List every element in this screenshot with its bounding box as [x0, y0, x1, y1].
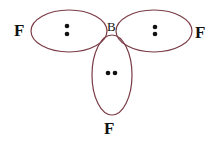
left-fluorine-label: F — [14, 21, 24, 40]
bottom-orbital — [92, 35, 132, 115]
bottom-electron-1 — [106, 71, 111, 76]
right-electron-1 — [153, 25, 158, 30]
left-electron-1 — [65, 24, 70, 29]
right-orbital — [116, 10, 192, 52]
bottom-electron-2 — [113, 71, 118, 76]
right-electron-2 — [153, 32, 158, 37]
bf3-orbital-diagram: F F F B — [0, 0, 213, 141]
right-fluorine-label: F — [195, 23, 205, 42]
bottom-fluorine-label: F — [104, 119, 114, 138]
boron-label: B — [107, 19, 116, 34]
left-orbital — [31, 10, 107, 52]
left-electron-2 — [65, 32, 70, 37]
